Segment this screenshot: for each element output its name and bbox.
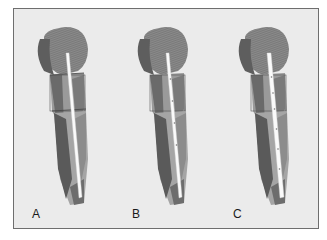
panel-label-c: C bbox=[233, 208, 242, 220]
limb-illustration-b bbox=[126, 9, 226, 228]
limb-illustration-a bbox=[26, 9, 126, 228]
panel-c: C bbox=[227, 9, 327, 228]
panel-a: A bbox=[26, 9, 126, 228]
panel-label-b: B bbox=[132, 208, 140, 220]
figure-frame: A B bbox=[13, 8, 319, 229]
limb-illustration-c bbox=[227, 9, 327, 228]
panel-label-a: A bbox=[32, 208, 40, 220]
panel-b: B bbox=[126, 9, 226, 228]
